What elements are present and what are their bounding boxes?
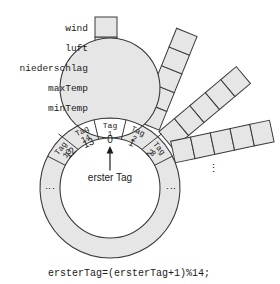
column-tag-1-cell-wind	[95, 17, 117, 37]
field-label-mintemp: minTemp	[48, 103, 88, 114]
ring-index-2: 0	[107, 134, 113, 145]
field-label-wind: wind	[65, 23, 88, 34]
figure-canvas: Tag 13 Tag 14 Tag 1 Tag 2 Tag 3	[0, 0, 280, 284]
column-ellipsis: ⋮	[208, 162, 219, 174]
ring-buffer-diagram: Tag 13 Tag 14 Tag 1 Tag 2 Tag 3	[0, 0, 280, 284]
pointer-label: erster Tag	[88, 172, 132, 183]
field-label-luft: luft	[65, 43, 88, 54]
column-tag-4-cell-wind	[250, 120, 274, 146]
caption-code: ersterTag=(ersterTag+1)%14;	[48, 268, 210, 279]
field-label-niederschlag: niederschlag	[20, 63, 88, 74]
field-label-maxtemp: maxTemp	[48, 83, 88, 94]
ring-ellipsis-left: ⋮	[44, 183, 56, 194]
ring-ellipsis-right: ⋮	[165, 183, 177, 194]
